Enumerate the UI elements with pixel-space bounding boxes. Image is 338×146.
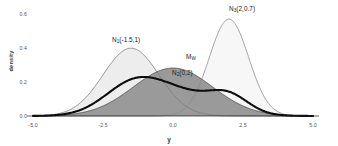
y-tick-label-0: 0.6 [5,11,27,17]
annotation-n3-args: (2,0.7) [236,5,255,12]
annotation-n2: N2(0,2) [172,69,193,76]
annotation-n2-args: (0,2) [179,69,192,76]
x-tick-label-1: -2.5 [88,122,118,128]
x-axis-title: y [0,136,338,143]
annotation-mw-sub: W [191,56,195,61]
annotation-n3: N3(2,0.7) [229,5,255,12]
x-tick-label-0: -5.0 [18,122,48,128]
annotation-n1-sub: 1 [117,39,120,44]
annotation-n1-args: (-1.5,1) [119,36,140,43]
annotation-n1: N1(-1.5,1) [112,36,140,43]
density-plot: 0.6 0.4 0.2 0.0 -5.0 -2.5 0.0 2.5 5.0 de… [0,0,338,146]
curve-layer [33,19,313,116]
y-axis-title: density [8,41,14,81]
annotation-n2-sub: 2 [177,72,180,77]
x-tick-label-4: 5.0 [298,122,328,128]
x-tick-label-3: 2.5 [228,122,258,128]
annotation-n1-base: N [112,36,117,43]
annotation-n3-base: N [229,5,234,12]
annotation-n2-base: N [172,69,177,76]
x-tick-label-2: 0.0 [158,122,188,128]
y-tick-label-3: 0.0 [5,113,27,119]
annotation-mixture: MW [186,53,196,60]
annotation-n3-sub: 3 [234,8,237,13]
